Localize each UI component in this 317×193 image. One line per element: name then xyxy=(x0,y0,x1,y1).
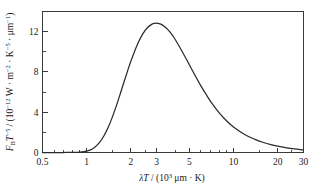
y-label-k: · K xyxy=(5,50,15,65)
x-tick-label: 1 xyxy=(84,157,89,167)
planck-distribution-plot: 0.51235102030 04812 λT / (103 μm · K) FB… xyxy=(0,0,317,193)
x-label-slash: / (10 xyxy=(149,173,169,184)
y-label-close: ) xyxy=(5,13,16,16)
x-tick-label: 10 xyxy=(229,157,239,167)
x-tick-label: 30 xyxy=(299,157,309,167)
y-label-um-exp: −1 xyxy=(4,16,11,23)
y-label-um: · μm xyxy=(5,22,15,43)
y-label-open: / (10 xyxy=(5,108,16,128)
chart-figure: 0.51235102030 04812 λT / (103 μm · K) FB… xyxy=(0,0,317,193)
y-tick-label: 0 xyxy=(34,148,39,158)
y-label-coef-exp: −12 xyxy=(4,98,11,108)
x-label-units: μm · K) xyxy=(172,173,205,184)
y-label-m-exp: −2 xyxy=(4,65,11,72)
x-axis-label: λT / (103 μm · K) xyxy=(138,172,205,184)
x-tick-label: 3 xyxy=(154,157,159,167)
y-label-w: W · m xyxy=(5,71,15,98)
y-tick-label: 12 xyxy=(29,27,39,37)
y-tick-label: 4 xyxy=(34,108,39,118)
y-tick-label: 8 xyxy=(34,67,39,77)
x-tick-label: 20 xyxy=(273,157,283,167)
x-tick-label: 2 xyxy=(128,157,133,167)
x-tick-label: 5 xyxy=(187,157,192,167)
x-tick-label: 0.5 xyxy=(37,157,49,167)
